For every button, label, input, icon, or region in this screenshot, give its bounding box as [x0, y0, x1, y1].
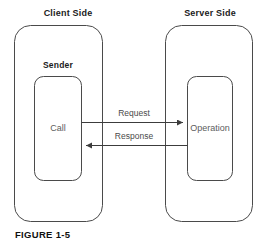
client-side-title: Client Side [44, 9, 93, 18]
figure-caption: FIGURE 1-5 [15, 229, 70, 240]
sender-title: Sender [43, 61, 73, 70]
operation-label: Operation [190, 124, 230, 133]
response-arrow-label: Response [115, 132, 153, 141]
server-side-title: Server Side [184, 9, 236, 18]
figure-1-5: Client Side Server Side Sender Call Oper… [0, 0, 268, 247]
call-label: Call [50, 124, 66, 133]
request-arrow-label: Request [118, 109, 150, 118]
